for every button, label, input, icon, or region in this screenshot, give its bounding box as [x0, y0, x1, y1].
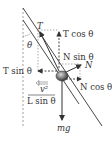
tension-vertical-label: T cos θ [63, 29, 93, 39]
tension-arrow [40, 32, 59, 71]
tension-label: T [37, 21, 44, 31]
normal-horizontal-label: N cos θ [80, 82, 112, 92]
normal-label: N [84, 60, 93, 70]
bead-ball [56, 71, 68, 81]
weight-label: mg [57, 123, 71, 133]
angle-label: θ [27, 40, 32, 50]
force-diagram: θ T T cos θ N sin θ N N cos θ T sin θ v²… [0, 0, 112, 143]
tension-horizontal-label: T sin θ [3, 66, 32, 76]
angle-arc [23, 33, 31, 36]
centripetal-numerator: v² [40, 84, 49, 94]
centripetal-denominator: L sin θ [27, 96, 56, 106]
